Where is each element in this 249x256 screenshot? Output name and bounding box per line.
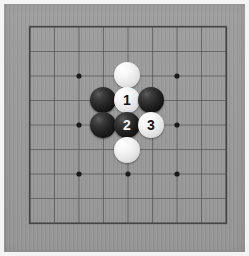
go-board-screenshot: 123 [0, 0, 249, 256]
white-stone[interactable]: 1 [114, 87, 140, 113]
black-stone[interactable]: 2 [114, 112, 140, 138]
white-stone[interactable] [114, 62, 140, 88]
move-number-label: 1 [114, 87, 140, 113]
move-number-label: 3 [138, 112, 164, 138]
move-number-label: 2 [114, 112, 140, 138]
stone-layer: 123 [0, 0, 249, 256]
black-stone[interactable] [138, 87, 164, 113]
white-stone[interactable] [114, 137, 140, 163]
black-stone[interactable] [90, 87, 116, 113]
white-stone[interactable]: 3 [138, 112, 164, 138]
black-stone[interactable] [90, 112, 116, 138]
